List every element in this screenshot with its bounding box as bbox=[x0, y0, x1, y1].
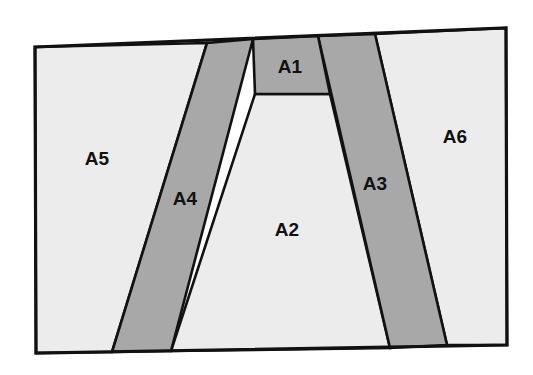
region-a1[interactable] bbox=[253, 36, 330, 94]
region-shapes-group bbox=[35, 28, 507, 353]
region-diagram-figure: A1 A2 A3 A4 A5 A6 bbox=[0, 0, 533, 375]
diagram-container: A1 A2 A3 A4 A5 A6 bbox=[0, 0, 533, 375]
